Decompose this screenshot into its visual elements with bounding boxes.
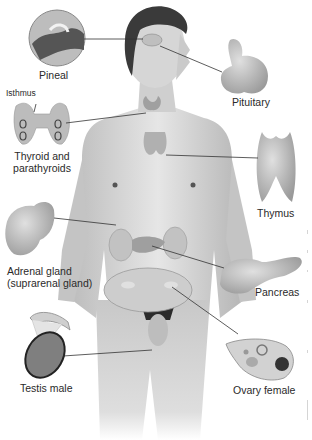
ovary-inset <box>226 339 293 380</box>
label-thyroid-line2: parathyroids <box>6 162 78 174</box>
label-testis: Testis male <box>20 382 73 394</box>
pineal-inset <box>29 10 85 66</box>
pituitary-inset <box>221 39 268 93</box>
label-isthmus: Isthmus <box>6 88 36 98</box>
thyroid-inset <box>14 103 69 144</box>
label-pituitary: Pituitary <box>232 96 270 108</box>
anatomy-illustration <box>0 0 312 440</box>
label-pancreas: Pancreas <box>255 286 299 298</box>
label-thyroid: Thyroid and parathyroids <box>6 150 78 174</box>
testis-inset <box>17 312 72 384</box>
label-adrenal: Adrenal gland (suprarenal gland) <box>7 265 92 289</box>
label-ovary: Ovary female <box>233 384 295 396</box>
faint-credit-marks <box>305 230 311 430</box>
thymus-inset <box>257 132 296 202</box>
label-thymus: Thymus <box>257 207 294 219</box>
endocrine-system-diagram: Pineal Pituitary Isthmus Thyroid and par… <box>0 0 312 440</box>
label-adrenal-line2: (suprarenal gland) <box>7 277 92 289</box>
label-adrenal-line1: Adrenal gland <box>7 265 92 277</box>
label-thyroid-line1: Thyroid and <box>6 150 78 162</box>
adrenal-inset <box>5 202 54 255</box>
label-pineal: Pineal <box>39 69 68 81</box>
